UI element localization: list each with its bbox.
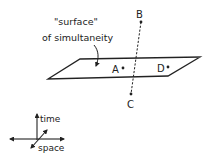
space-axis-label: space [38,143,65,153]
axes-legend: time space [10,114,65,153]
point-b-dot [140,21,143,24]
surface-label-line2: of simultaneity [42,32,113,43]
point-c-dot [130,93,133,96]
point-c-label: C [127,99,134,110]
point-b-label: B [136,9,143,20]
surface-label-line1: "surface" [54,16,98,27]
point-a-dot [122,67,125,70]
space-axis-depth-arrow-icon [39,130,47,139]
spacetime-diagram: B A C D "surface" of simultaneity time s… [0,0,206,159]
time-axis-label: time [40,114,61,124]
point-d-dot [167,66,170,69]
point-a-label: A [112,64,119,75]
surface-pointer-arrow-icon [94,45,98,66]
point-d-label: D [157,63,165,74]
